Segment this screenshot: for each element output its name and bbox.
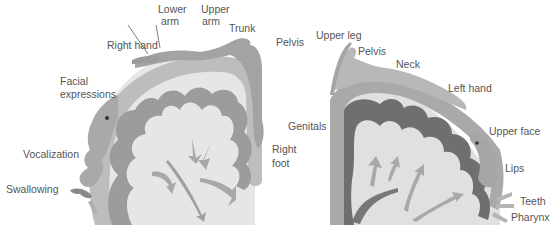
right-cortex-section xyxy=(330,42,514,225)
label-upper-arm-line1: Upper xyxy=(201,3,230,15)
label-left-hand: Left hand xyxy=(448,82,492,94)
label-right-foot-line2: foot xyxy=(272,157,290,169)
label-upper-arm-line2: arm xyxy=(202,15,220,27)
label-upper-leg: Upper leg xyxy=(316,29,362,41)
label-right-foot-line1: Right xyxy=(272,143,297,155)
homunculus-illustration xyxy=(0,0,552,232)
left-cortex-section xyxy=(70,25,264,225)
label-pelvis-right: Pelvis xyxy=(358,45,386,57)
label-lower-arm-line2: arm xyxy=(161,15,179,27)
label-teeth: Teeth xyxy=(520,195,546,207)
label-vocalization: Vocalization xyxy=(23,148,79,160)
label-facial-line1: Facial xyxy=(60,75,88,87)
label-genitals: Genitals xyxy=(288,120,327,132)
label-right-hand: Right hand xyxy=(107,39,158,51)
label-swallowing: Swallowing xyxy=(6,183,59,195)
label-lower-arm-line1: Lower xyxy=(158,3,187,15)
label-upper-face: Upper face xyxy=(489,125,540,137)
label-pharynx: Pharynx xyxy=(511,211,550,223)
label-pelvis-left: Pelvis xyxy=(276,36,304,48)
label-trunk: Trunk xyxy=(229,22,255,34)
label-facial-line2: expressions xyxy=(60,88,116,100)
diagram-canvas: Lower arm Upper arm Trunk Pelvis Right h… xyxy=(0,0,552,232)
label-lips: Lips xyxy=(505,162,524,174)
label-neck: Neck xyxy=(396,58,420,70)
